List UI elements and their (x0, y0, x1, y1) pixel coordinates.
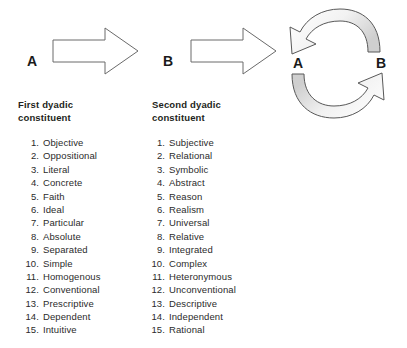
curved-arrow-b-to-a-icon (290, 9, 380, 54)
list-item: 2.Relational (150, 149, 236, 162)
cycle-node-label-b: B (376, 56, 386, 70)
list-item-number: 6. (24, 203, 43, 216)
list-item-label: Heteronymous (169, 270, 236, 283)
list-item: 12.Conventional (24, 283, 101, 296)
list-item-number: 12. (150, 283, 169, 296)
list-item: 7.Particular (24, 216, 101, 229)
list-item-label: Relational (169, 149, 236, 162)
list-item-number: 5. (24, 190, 43, 203)
list-item-number: 11. (150, 270, 169, 283)
list-item-number: 2. (24, 149, 43, 162)
list-item: 10.Simple (24, 257, 101, 270)
list-item: 7.Universal (150, 216, 236, 229)
second-dyadic-constituent-list: 1.Subjective 2.Relational 3.Symbolic 4.A… (150, 136, 236, 337)
list-item: 3.Symbolic (150, 163, 236, 176)
list-item-number: 8. (24, 230, 43, 243)
list-item: 3.Literal (24, 163, 101, 176)
list-item: 2.Oppositional (24, 149, 101, 162)
list-item-label: Homogenous (43, 270, 101, 283)
list-item-number: 4. (24, 176, 43, 189)
list-item-number: 11. (24, 270, 43, 283)
right-block-arrow-icon (52, 26, 140, 80)
list-item-label: Integrated (169, 243, 236, 256)
list-item-number: 10. (24, 257, 43, 270)
list-item-number: 15. (150, 323, 169, 336)
list-item: 8.Relative (150, 230, 236, 243)
list-item-number: 3. (24, 163, 43, 176)
list-item: 9.Integrated (150, 243, 236, 256)
list-item-label: Oppositional (43, 149, 101, 162)
list-item-label: Ideal (43, 203, 101, 216)
list-item-number: 3. (150, 163, 169, 176)
list-item-label: Universal (169, 216, 236, 229)
list-item-label: Faith (43, 190, 101, 203)
diagram-canvas: A B (0, 0, 407, 348)
first-dyadic-constituent-list: 1.Objective 2.Oppositional 3.Literal 4.C… (24, 136, 101, 337)
list-item: 14.Dependent (24, 310, 101, 323)
list-item-label: Simple (43, 257, 101, 270)
list-item-number: 9. (24, 243, 43, 256)
list-item-number: 6. (150, 203, 169, 216)
list-item-label: Abstract (169, 176, 236, 189)
list-item-number: 1. (150, 136, 169, 149)
list-item: 13.Prescriptive (24, 297, 101, 310)
list-item-label: Absolute (43, 230, 101, 243)
list-item-label: Relative (169, 230, 236, 243)
list-item: 8.Absolute (24, 230, 101, 243)
list-item-number: 9. (150, 243, 169, 256)
list-item-label: Complex (169, 257, 236, 270)
list-item: 14.Independent (150, 310, 236, 323)
list-item-label: Rational (169, 323, 236, 336)
list-item-number: 2. (150, 149, 169, 162)
list-item-label: Independent (169, 310, 236, 323)
list-item-label: Objective (43, 136, 101, 149)
list-item-number: 13. (150, 297, 169, 310)
list-item-label: Intuitive (43, 323, 101, 336)
list-item-number: 4. (150, 176, 169, 189)
list-item-number: 5. (150, 190, 169, 203)
list-item-number: 12. (24, 283, 43, 296)
list-item: 6.Ideal (24, 203, 101, 216)
list-item-label: Descriptive (169, 297, 236, 310)
list-item-number: 8. (150, 230, 169, 243)
list-item-number: 7. (24, 216, 43, 229)
list-item-label: Concrete (43, 176, 101, 189)
list-item: 9.Separated (24, 243, 101, 256)
list-item-number: 14. (150, 310, 169, 323)
right-block-arrow-icon (190, 26, 278, 80)
list-item-label: Separated (43, 243, 101, 256)
list-item-number: 7. (150, 216, 169, 229)
list-item: 1.Subjective (150, 136, 236, 149)
list-item: 12.Unconventional (150, 283, 236, 296)
curved-arrow-a-to-b-icon (292, 73, 384, 118)
list-item: 13.Descriptive (150, 297, 236, 310)
node-label-a-first: A (27, 54, 37, 68)
list-item-number: 10. (150, 257, 169, 270)
list-item: 11.Homogenous (24, 270, 101, 283)
list-item-label: Reason (169, 190, 236, 203)
cycle-node-label-a: A (293, 56, 303, 70)
list-item-number: 13. (24, 297, 43, 310)
list-item-number: 15. (24, 323, 43, 336)
column-heading-first-dyadic: First dyadic constituent (18, 99, 128, 124)
list-item-label: Literal (43, 163, 101, 176)
list-item: 4.Abstract (150, 176, 236, 189)
list-item-label: Dependent (43, 310, 101, 323)
list-item: 4.Concrete (24, 176, 101, 189)
list-item: 1.Objective (24, 136, 101, 149)
list-item-label: Realism (169, 203, 236, 216)
list-item-label: Prescriptive (43, 297, 101, 310)
list-item-label: Subjective (169, 136, 236, 149)
list-item: 10.Complex (150, 257, 236, 270)
list-item: 15.Rational (150, 323, 236, 336)
list-item-label: Symbolic (169, 163, 236, 176)
list-item: 15.Intuitive (24, 323, 101, 336)
list-item: 6.Realism (150, 203, 236, 216)
node-label-b-second: B (163, 54, 173, 68)
list-item-label: Particular (43, 216, 101, 229)
list-item-label: Unconventional (169, 283, 236, 296)
list-item-number: 14. (24, 310, 43, 323)
list-item: 5.Reason (150, 190, 236, 203)
list-item: 11.Heteronymous (150, 270, 236, 283)
list-item-label: Conventional (43, 283, 101, 296)
